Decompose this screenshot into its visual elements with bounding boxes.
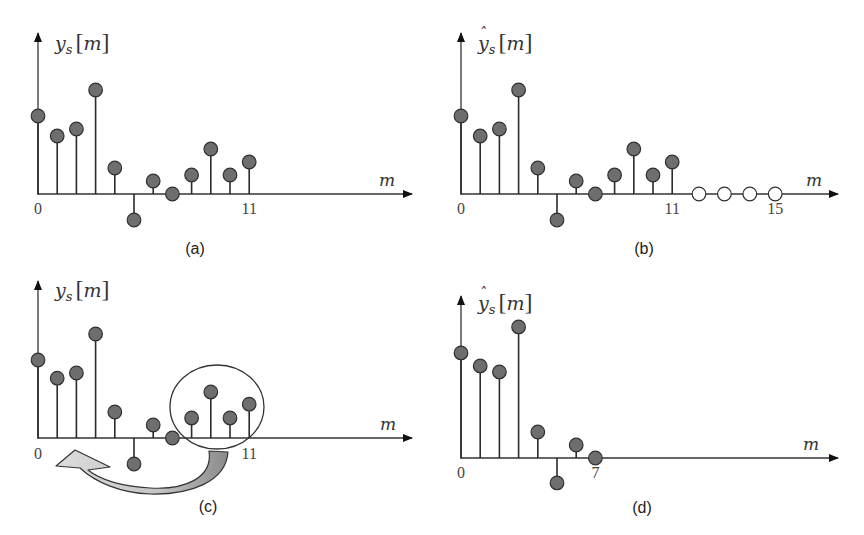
x-tick-label: 0 <box>457 464 465 481</box>
sample-point <box>454 109 468 123</box>
panel-a: ys[m]m011(a) <box>31 29 412 257</box>
y-label-open-bracket: [ <box>498 289 506 315</box>
sample-point <box>608 168 622 182</box>
sample-point <box>108 405 122 419</box>
panel-b: ys[m]ˆm01115(b) <box>454 25 838 257</box>
x-axis-label: m <box>380 414 396 434</box>
figure: ys[m]m011(a) ys[m]ˆm01115(b) ys[m]m011(c… <box>0 0 864 535</box>
y-label-open-bracket: [ <box>498 29 506 55</box>
sample-point <box>108 161 122 175</box>
sample-point <box>127 213 141 227</box>
sample-point <box>550 213 564 227</box>
y-label-close-bracket: ] <box>524 289 532 315</box>
sample-point <box>512 320 526 334</box>
sample-point <box>512 83 526 97</box>
x-tick-label: 0 <box>34 200 42 217</box>
y-label-arg: m <box>506 292 524 314</box>
sample-point <box>454 346 468 360</box>
sample-point <box>242 155 256 169</box>
panel-caption: (d) <box>632 499 652 516</box>
x-tick-label: 11 <box>241 200 256 217</box>
y-label-arg: m <box>83 279 101 301</box>
sample-point <box>70 366 84 380</box>
sample-point <box>242 397 256 411</box>
y-label-subscript: s <box>66 42 73 57</box>
x-tick-label: 11 <box>241 445 256 462</box>
zero-pad-point <box>743 187 757 201</box>
x-tick-label: 15 <box>767 200 783 217</box>
sample-point <box>127 457 141 471</box>
zero-pad-point <box>718 187 732 201</box>
sample-point <box>646 168 660 182</box>
sample-point <box>204 142 218 156</box>
sample-point <box>589 187 603 201</box>
y-label-close-bracket: ] <box>101 276 109 302</box>
panel-caption: (a) <box>185 240 205 257</box>
y-label-base: y <box>54 32 66 54</box>
y-label-subscript: s <box>489 302 496 317</box>
sample-point <box>50 371 64 385</box>
panel-c: ys[m]m011(c) <box>31 276 412 515</box>
sample-point <box>665 155 679 169</box>
sample-point <box>185 411 199 425</box>
panel-d: ys[m]ˆm07(d) <box>454 285 838 516</box>
sample-point <box>531 161 545 175</box>
sample-point <box>569 438 583 452</box>
y-axis-label: ys[m] <box>54 29 109 57</box>
sample-point <box>531 425 545 439</box>
panel-caption: (c) <box>199 498 218 515</box>
sample-point <box>550 476 564 490</box>
sample-point <box>223 168 237 182</box>
x-tick-label: 7 <box>591 464 599 481</box>
sample-point <box>31 353 45 367</box>
x-axis-label: m <box>803 434 819 454</box>
sample-point <box>473 129 487 143</box>
sample-point <box>493 122 507 136</box>
sample-point <box>146 174 160 188</box>
y-label-close-bracket: ] <box>101 29 109 55</box>
sample-point <box>89 327 103 341</box>
y-label-open-bracket: [ <box>75 29 83 55</box>
y-label-arg: m <box>83 32 101 54</box>
x-axis-label: m <box>806 170 822 190</box>
sample-point <box>493 365 507 379</box>
sample-point <box>31 109 45 123</box>
sample-point <box>223 411 237 425</box>
y-label-subscript: s <box>489 42 496 57</box>
panel-caption: (b) <box>634 240 654 257</box>
sample-point <box>166 431 180 445</box>
zero-pad-point <box>692 187 706 201</box>
y-label-arg: m <box>506 32 524 54</box>
y-label-base: y <box>54 279 66 301</box>
sample-point <box>589 451 603 465</box>
y-label-hat: ˆ <box>479 285 486 301</box>
x-axis-label: m <box>379 170 395 190</box>
sample-point <box>473 359 487 373</box>
sample-point <box>89 83 103 97</box>
x-tick-label: 0 <box>457 200 465 217</box>
sample-point <box>70 122 84 136</box>
y-label-open-bracket: [ <box>75 276 83 302</box>
sample-point <box>146 418 160 432</box>
x-tick-label: 11 <box>664 200 679 217</box>
sample-point <box>50 129 64 143</box>
y-axis-label: ys[m] <box>54 276 109 304</box>
wrap-around-arrow <box>56 450 228 494</box>
y-label-close-bracket: ] <box>524 29 532 55</box>
sample-point <box>204 385 218 399</box>
y-label-subscript: s <box>66 289 73 304</box>
y-label-hat: ˆ <box>479 25 486 41</box>
sample-point <box>569 174 583 188</box>
sample-point <box>166 187 180 201</box>
x-tick-label: 0 <box>34 445 42 462</box>
zero-pad-point <box>768 187 782 201</box>
sample-point <box>185 168 199 182</box>
sample-point <box>627 142 641 156</box>
